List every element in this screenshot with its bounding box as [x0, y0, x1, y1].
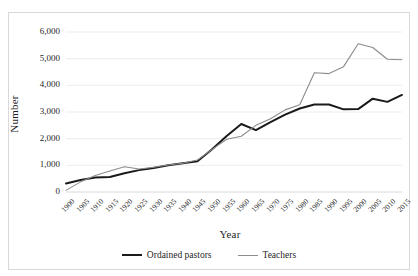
legend-label: Teachers	[263, 250, 297, 260]
y-tick-label: 6,000	[20, 26, 60, 36]
y-tick-label: 2,000	[20, 133, 60, 143]
legend-item[interactable]: Ordained pastors	[122, 250, 212, 260]
y-tick-label: 5,000	[20, 53, 60, 63]
legend-item[interactable]: Teachers	[238, 250, 297, 260]
chart-legend: Ordained pastorsTeachers	[0, 250, 418, 260]
y-tick-label: 1,000	[20, 159, 60, 169]
y-tick-label: 3,000	[20, 106, 60, 116]
legend-label: Ordained pastors	[147, 250, 212, 260]
legend-line-swatch	[122, 254, 142, 256]
series-line-ordained-pastors	[66, 95, 402, 184]
gridlines	[66, 32, 402, 192]
y-tick-label: 0	[20, 186, 60, 196]
series-line-teachers	[66, 44, 402, 191]
line-chart: 01,0002,0003,0004,0005,0006,000 19001905…	[0, 0, 418, 276]
y-tick-label: 4,000	[20, 79, 60, 89]
data-series-group	[66, 44, 402, 191]
y-axis-title: Number	[8, 74, 20, 154]
x-axis-title: Year	[60, 228, 400, 240]
legend-line-swatch	[238, 255, 258, 256]
